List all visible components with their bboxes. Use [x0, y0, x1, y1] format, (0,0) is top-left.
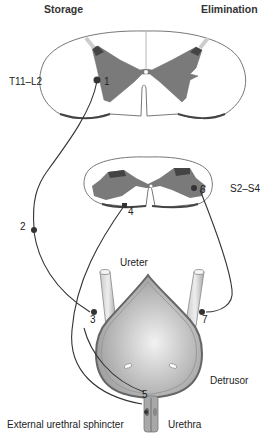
ureter-label: Ureter — [120, 257, 148, 268]
elimination-header: Elimination — [201, 3, 258, 15]
marker-7: 7 — [202, 315, 208, 325]
marker-3: 3 — [90, 315, 96, 325]
storage-header: Storage — [44, 3, 83, 15]
segment-label-s2-s4: S2–S4 — [230, 183, 260, 194]
detrusor-label: Detrusor — [210, 375, 248, 386]
marker-1: 1 — [104, 77, 110, 87]
marker-4: 4 — [128, 207, 134, 217]
marker-2: 2 — [20, 222, 26, 232]
marker-6: 6 — [200, 185, 206, 195]
spinal-cord-lower — [84, 157, 212, 207]
segment-label-t11-l2: T11–L2 — [9, 76, 42, 87]
urethra-label: Urethra — [168, 419, 201, 430]
marker-5: 5 — [142, 390, 148, 400]
external-sphincter-label: External urethral sphincter — [7, 419, 124, 430]
spinal-cord-upper — [40, 31, 246, 119]
